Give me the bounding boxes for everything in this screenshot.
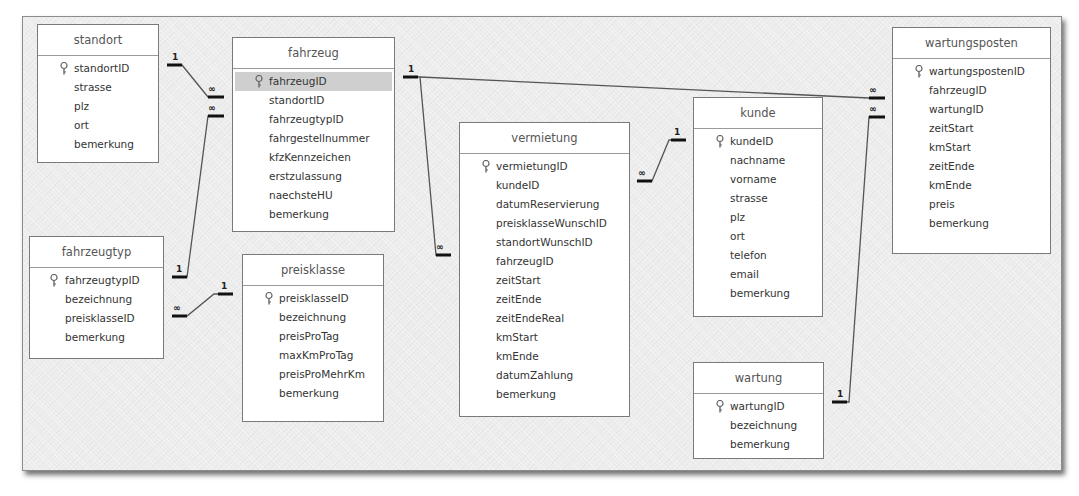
- field[interactable]: email: [694, 265, 822, 284]
- cardinality-many: ∞: [869, 104, 877, 114]
- field-primary-key-selected[interactable]: fahrzeugID: [235, 72, 392, 91]
- key-icon: [716, 135, 724, 148]
- field-primary-key[interactable]: preisklasseID: [243, 289, 383, 308]
- field[interactable]: bemerkung: [243, 384, 383, 403]
- field[interactable]: zeitEnde: [893, 157, 1050, 176]
- field[interactable]: bezeichnung: [30, 290, 163, 309]
- table-title: vermietung: [460, 123, 629, 154]
- field[interactable]: bemerkung: [30, 328, 163, 347]
- cardinality-one: 1: [408, 64, 414, 74]
- field[interactable]: strasse: [38, 78, 158, 97]
- field[interactable]: bemerkung: [233, 205, 394, 224]
- field[interactable]: standortWunschID: [460, 233, 629, 252]
- key-icon: [482, 160, 490, 173]
- field[interactable]: nachname: [694, 151, 822, 170]
- field[interactable]: bemerkung: [893, 214, 1050, 233]
- field[interactable]: preis: [893, 195, 1050, 214]
- rel-fahrzeugtyp-fahrzeug[interactable]: [172, 116, 224, 277]
- table-wartung[interactable]: wartung wartungID bezeichnung bemerkung: [693, 362, 824, 459]
- cardinality-many: ∞: [208, 103, 216, 113]
- field[interactable]: maxKmProTag: [243, 346, 383, 365]
- cardinality-many: ∞: [638, 168, 646, 178]
- cardinality-one: 1: [172, 52, 178, 62]
- field[interactable]: standortID: [233, 91, 394, 110]
- key-icon: [265, 292, 273, 305]
- table-title: wartungsposten: [893, 28, 1050, 59]
- field-primary-key[interactable]: vermietungID: [460, 157, 629, 176]
- field[interactable]: kmEnde: [893, 176, 1050, 195]
- field[interactable]: zeitEnde: [460, 290, 629, 309]
- field[interactable]: naechsteHU: [233, 186, 394, 205]
- field[interactable]: zeitStart: [460, 271, 629, 290]
- field[interactable]: strasse: [694, 189, 822, 208]
- field[interactable]: kfzKennzeichen: [233, 148, 394, 167]
- rel-preisklasse-fahrzeugtyp[interactable]: [172, 294, 233, 316]
- table-wartungsposten[interactable]: wartungsposten wartungspostenID fahrzeug…: [892, 27, 1051, 254]
- cardinality-many: ∞: [436, 242, 444, 252]
- cardinality-many: ∞: [173, 303, 181, 313]
- table-preisklasse[interactable]: preisklasse preisklasseID bezeichnung pr…: [242, 254, 384, 422]
- field[interactable]: fahrzeugID: [893, 81, 1050, 100]
- field[interactable]: fahrzeugID: [460, 252, 629, 271]
- cardinality-one: 1: [674, 127, 680, 137]
- field-primary-key[interactable]: fahrzeugtypID: [30, 271, 163, 290]
- field[interactable]: bezeichnung: [694, 416, 823, 435]
- table-title: kunde: [694, 98, 822, 129]
- field[interactable]: fahrzeugtypID: [233, 110, 394, 129]
- cardinality-many: ∞: [208, 84, 216, 94]
- rel-fahrzeug-wartungsposten[interactable]: [420, 77, 885, 98]
- cardinality-one: 1: [221, 281, 227, 291]
- key-icon: [915, 65, 923, 78]
- field[interactable]: zeitStart: [893, 119, 1050, 138]
- field[interactable]: telefon: [694, 246, 822, 265]
- key-icon: [255, 75, 263, 88]
- field[interactable]: kmEnde: [460, 347, 629, 366]
- key-icon: [716, 400, 724, 413]
- field[interactable]: erstzulassung: [233, 167, 394, 186]
- table-title: standort: [38, 25, 158, 56]
- field[interactable]: datumZahlung: [460, 366, 629, 385]
- field[interactable]: kmStart: [460, 328, 629, 347]
- field[interactable]: bemerkung: [460, 385, 629, 404]
- field-primary-key[interactable]: wartungspostenID: [893, 62, 1050, 81]
- table-kunde[interactable]: kunde kundeID nachname vorname strasse p…: [693, 97, 823, 317]
- key-icon: [50, 274, 58, 287]
- field-primary-key[interactable]: kundeID: [694, 132, 822, 151]
- field[interactable]: kundeID: [460, 176, 629, 195]
- field[interactable]: bemerkung: [38, 135, 158, 154]
- field[interactable]: preisklasseWunschID: [460, 214, 629, 233]
- rel-wartung-wartungsposten[interactable]: [832, 117, 885, 402]
- table-title: fahrzeugtyp: [30, 237, 163, 268]
- cardinality-one: 1: [837, 389, 843, 399]
- table-fahrzeug[interactable]: fahrzeug fahrzeugID standortID fahrzeugt…: [232, 37, 395, 232]
- table-fahrzeugtyp[interactable]: fahrzeugtyp fahrzeugtypID bezeichnung pr…: [29, 236, 164, 359]
- field[interactable]: wartungID: [893, 100, 1050, 119]
- field[interactable]: zeitEndeReal: [460, 309, 629, 328]
- field[interactable]: bezeichnung: [243, 308, 383, 327]
- field[interactable]: fahrgestellnummer: [233, 129, 394, 148]
- field[interactable]: ort: [694, 227, 822, 246]
- table-title: preisklasse: [243, 255, 383, 286]
- field[interactable]: kmStart: [893, 138, 1050, 157]
- field[interactable]: plz: [38, 97, 158, 116]
- field-primary-key[interactable]: wartungID: [694, 397, 823, 416]
- table-title: fahrzeug: [233, 38, 394, 69]
- field[interactable]: ort: [38, 116, 158, 135]
- field[interactable]: preisProMehrKm: [243, 365, 383, 384]
- field[interactable]: plz: [694, 208, 822, 227]
- rel-fahrzeug-vermietung[interactable]: [403, 77, 451, 255]
- cardinality-one: 1: [176, 264, 182, 274]
- field[interactable]: preisklasseID: [30, 309, 163, 328]
- field[interactable]: datumReservierung: [460, 195, 629, 214]
- cardinality-many: ∞: [869, 85, 877, 95]
- table-vermietung[interactable]: vermietung vermietungID kundeID datumRes…: [459, 122, 630, 417]
- table-standort[interactable]: standort standortID strasse plz ort beme…: [37, 24, 159, 163]
- field[interactable]: bemerkung: [694, 284, 822, 303]
- field[interactable]: vorname: [694, 170, 822, 189]
- field-primary-key[interactable]: standortID: [38, 59, 158, 78]
- key-icon: [60, 62, 68, 75]
- field[interactable]: bemerkung: [694, 435, 823, 454]
- field[interactable]: preisProTag: [243, 327, 383, 346]
- table-title: wartung: [694, 363, 823, 394]
